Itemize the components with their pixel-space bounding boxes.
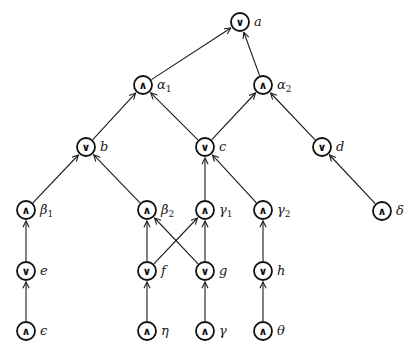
edge-alpha2-to-a	[244, 32, 260, 75]
node-label: c	[219, 139, 227, 154]
edge-c-to-alpha1	[151, 93, 198, 140]
node-eta: ∧η	[138, 322, 169, 340]
node-label: γ2	[277, 202, 291, 219]
node-gamma2: ∧γ2	[254, 201, 291, 219]
edge-delta-to-d	[330, 155, 376, 204]
node-label: α1	[157, 77, 172, 94]
and-operator-icon: ∧	[139, 79, 148, 92]
node-gamma1: ∧γ1	[196, 201, 233, 219]
node-label: g	[219, 263, 227, 278]
or-operator-icon: ∨	[318, 141, 327, 154]
node-beta2: ∧β2	[138, 201, 174, 219]
and-or-graph-diagram: ∨a∧α1∧α2∨b∨c∨d∧β1∧β2∧γ1∧γ2∧δ∨e∨f∨g∨h∧ϵ∧η…	[0, 0, 416, 357]
and-operator-icon: ∧	[201, 325, 210, 338]
node-label: β2	[160, 202, 174, 219]
and-operator-icon: ∧	[143, 204, 152, 217]
node-label: α2	[277, 77, 292, 94]
edge-d-to-alpha2	[271, 93, 316, 140]
or-operator-icon: ∨	[143, 265, 152, 278]
node-beta1: ∧β1	[17, 201, 53, 219]
node-g: ∨g	[196, 262, 227, 280]
node-label: h	[277, 263, 285, 278]
node-label: δ	[396, 203, 404, 218]
and-operator-icon: ∧	[22, 204, 31, 217]
node-epsilon: ∧ϵ	[17, 322, 48, 340]
node-label: d	[336, 139, 344, 154]
edge-c-to-alpha2	[212, 93, 256, 140]
node-d: ∨d	[313, 138, 344, 156]
edge-beta2-to-b	[94, 155, 140, 203]
node-theta: ∧θ	[254, 322, 285, 340]
node-label: e	[40, 263, 48, 278]
node-label: f	[160, 263, 168, 278]
node-label: b	[100, 139, 108, 154]
node-e: ∨e	[17, 262, 48, 280]
and-operator-icon: ∧	[259, 325, 268, 338]
node-label: γ	[219, 323, 227, 338]
edge-b-to-alpha1	[93, 93, 136, 140]
and-operator-icon: ∧	[22, 325, 31, 338]
node-label: β1	[39, 202, 53, 219]
node-label: γ1	[219, 202, 233, 219]
node-label: η	[161, 323, 169, 338]
and-operator-icon: ∧	[201, 204, 210, 217]
node-h: ∨h	[254, 262, 285, 280]
node-label: a	[254, 14, 262, 29]
edge-gamma2-to-c	[213, 155, 257, 203]
node-c: ∨c	[196, 138, 227, 156]
and-operator-icon: ∧	[143, 325, 152, 338]
and-operator-icon: ∧	[259, 79, 268, 92]
node-gamma: ∧γ	[196, 322, 227, 340]
or-operator-icon: ∨	[82, 141, 91, 154]
or-operator-icon: ∨	[259, 265, 268, 278]
node-f: ∨f	[138, 262, 168, 280]
or-operator-icon: ∨	[201, 141, 210, 154]
node-b: ∨b	[77, 138, 108, 156]
or-operator-icon: ∨	[22, 265, 31, 278]
node-label: ϵ	[40, 323, 48, 338]
node-delta: ∧δ	[373, 202, 404, 220]
node-alpha2: ∧α2	[254, 76, 292, 94]
node-label: θ	[277, 323, 285, 338]
edge-alpha1-to-a	[151, 28, 230, 80]
and-operator-icon: ∧	[378, 205, 387, 218]
or-operator-icon: ∨	[236, 16, 245, 29]
node-a: ∨a	[231, 13, 262, 31]
edge-beta1-to-b	[33, 155, 79, 203]
nodes: ∨a∧α1∧α2∨b∨c∨d∧β1∧β2∧γ1∧γ2∧δ∨e∨f∨g∨h∧ϵ∧η…	[17, 13, 404, 340]
and-operator-icon: ∧	[259, 204, 268, 217]
or-operator-icon: ∨	[201, 265, 210, 278]
